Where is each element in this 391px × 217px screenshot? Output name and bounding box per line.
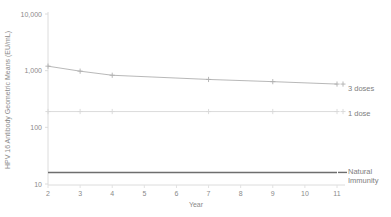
x-axis-title: Year — [189, 201, 204, 208]
x-tick-label: 9 — [271, 190, 275, 197]
y-tick-label: 100 — [30, 124, 42, 131]
x-tick-label: 2 — [46, 190, 50, 197]
series-label-one-dose: 1 dose — [348, 109, 371, 118]
y-tick-label: 10 — [34, 181, 42, 188]
series-label-three-doses: 3 doses — [348, 84, 375, 93]
x-tick-label: 7 — [207, 190, 211, 197]
x-tick-label: 8 — [239, 190, 243, 197]
y-axis-title: HPV 16 Antibody Geometric Means (EU/mL) — [4, 31, 12, 169]
x-tick-label: 6 — [174, 190, 178, 197]
chart-container: 10,0001,00010010 234567891011 HPV 16 Ant… — [0, 0, 391, 217]
y-tick-label: 1,000 — [24, 67, 42, 74]
series-label-natural-immunity-line1: Natural — [348, 167, 373, 176]
x-tick-label: 11 — [333, 190, 340, 197]
x-tick-label: 5 — [142, 190, 146, 197]
x-tick-label: 3 — [78, 190, 82, 197]
chart-background — [0, 0, 391, 217]
hpv-antibody-line-chart: 10,0001,00010010 234567891011 HPV 16 Ant… — [0, 0, 391, 217]
y-tick-label: 10,000 — [21, 11, 43, 18]
x-tick-label: 10 — [301, 190, 309, 197]
x-tick-label: 4 — [110, 190, 114, 197]
series-label-natural-immunity-line2: Immunity — [348, 176, 379, 185]
